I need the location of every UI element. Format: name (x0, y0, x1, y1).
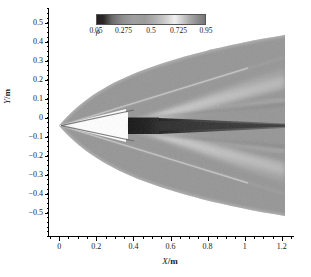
x-minor-tick (245, 237, 246, 239)
y-tick-label: −0.3 (28, 171, 43, 179)
y-minor-tick (47, 98, 49, 99)
x-minor-tick (189, 237, 190, 239)
y-minor-tick (47, 141, 49, 142)
density-contour-figure: ρ 0.050.2750.50.7250.95 0.50.40.30.20.10… (0, 0, 311, 277)
x-minor-tick (50, 237, 51, 239)
y-minor-tick (47, 103, 49, 104)
y-minor-tick (47, 227, 49, 228)
y-minor-tick (47, 136, 49, 137)
y-minor-tick (47, 160, 49, 161)
colorbar-tick-label: 0.5 (146, 26, 155, 35)
y-minor-tick (47, 189, 49, 190)
y-minor-tick (47, 151, 49, 152)
x-minor-tick (68, 237, 69, 239)
y-minor-tick (47, 179, 49, 180)
y-tick-label: −0.4 (28, 190, 43, 198)
x-minor-tick (133, 237, 134, 239)
x-tick-label: 1.2 (277, 243, 287, 251)
y-tick-label: 0 (39, 114, 43, 122)
x-minor-tick (124, 237, 125, 239)
x-minor-tick (143, 237, 144, 239)
y-minor-tick (47, 208, 49, 209)
colorbar-tick-label: 0.725 (170, 26, 187, 35)
y-tick-mark (45, 194, 49, 195)
x-minor-tick (235, 237, 236, 239)
y-tick-label: 0.1 (33, 95, 43, 103)
x-minor-tick (226, 237, 227, 239)
y-tick-label: −0.1 (28, 133, 43, 141)
y-minor-tick (47, 155, 49, 156)
y-minor-tick (47, 51, 49, 52)
x-axis-ticks: 00.20.40.60.811.2 (0, 237, 311, 257)
y-minor-tick (47, 222, 49, 223)
y-minor-tick (47, 94, 49, 95)
x-minor-tick (171, 237, 172, 239)
y-tick-mark (45, 61, 49, 62)
colorbar-tick-label: 0.05 (89, 26, 102, 35)
y-tick-mark (45, 118, 49, 119)
y-minor-tick (47, 203, 49, 204)
y-tick-mark (45, 175, 49, 176)
x-minor-tick (198, 237, 199, 239)
y-minor-tick (47, 165, 49, 166)
y-tick-mark (45, 42, 49, 43)
y-minor-tick (47, 122, 49, 123)
bow-shock-region (48, 8, 293, 236)
y-minor-tick (47, 184, 49, 185)
y-minor-tick (47, 127, 49, 128)
x-minor-tick (152, 237, 153, 239)
y-tick-label: 0.2 (33, 76, 43, 84)
x-axis-unit: /m (168, 256, 178, 266)
y-minor-tick (47, 22, 49, 23)
y-axis-ticks: 0.50.40.30.20.10−0.1−0.2−0.3−0.4−0.5 (0, 0, 49, 237)
colorbar-tick-labels: 0.050.2750.50.7250.95 (68, 26, 213, 38)
y-axis-unit: /m (2, 89, 12, 99)
y-minor-tick (47, 32, 49, 33)
y-minor-tick (47, 18, 49, 19)
y-tick-mark (45, 99, 49, 100)
x-minor-tick (87, 237, 88, 239)
y-axis-symbol: Y (2, 99, 12, 104)
x-minor-tick (180, 237, 181, 239)
x-minor-tick (96, 237, 97, 239)
y-minor-tick (47, 108, 49, 109)
colorbar: ρ 0.050.2750.50.7250.95 (96, 14, 206, 40)
y-tick-mark (45, 213, 49, 214)
x-tick-label: 0.4 (128, 243, 138, 251)
x-minor-tick (59, 237, 60, 239)
x-minor-tick (282, 237, 283, 239)
x-minor-tick (273, 237, 274, 239)
y-minor-tick (47, 212, 49, 213)
y-minor-tick (47, 8, 49, 9)
x-tick-label: 0.2 (91, 243, 101, 251)
x-minor-tick (208, 237, 209, 239)
x-minor-tick (161, 237, 162, 239)
x-minor-tick (263, 237, 264, 239)
y-minor-tick (47, 79, 49, 80)
y-minor-tick (47, 13, 49, 14)
y-minor-tick (47, 37, 49, 38)
flowfield-heatmap (48, 8, 293, 236)
x-minor-tick (254, 237, 255, 239)
y-minor-tick (47, 56, 49, 57)
y-minor-tick (47, 70, 49, 71)
y-axis-title: Y/m (2, 89, 12, 104)
y-tick-label: −0.5 (28, 209, 43, 217)
plot-canvas (48, 8, 293, 236)
x-minor-tick (217, 237, 218, 239)
x-tick-label: 0.8 (203, 243, 213, 251)
y-tick-mark (45, 137, 49, 138)
y-minor-tick (47, 174, 49, 175)
y-minor-tick (47, 132, 49, 133)
y-minor-tick (47, 27, 49, 28)
y-minor-tick (47, 198, 49, 199)
y-minor-tick (47, 84, 49, 85)
x-tick-label: 0.6 (166, 243, 176, 251)
y-tick-label: −0.2 (28, 152, 43, 160)
y-minor-tick (47, 117, 49, 118)
y-tick-mark (45, 156, 49, 157)
y-tick-mark (45, 80, 49, 81)
colorbar-gradient (96, 14, 206, 25)
y-tick-label: 0.5 (33, 19, 43, 27)
y-minor-tick (47, 89, 49, 90)
